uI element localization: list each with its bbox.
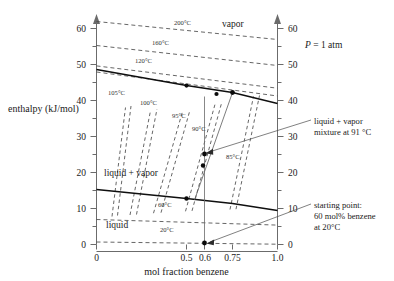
marker-mixture-lower [201, 163, 205, 167]
y-tick-label-30: 30 [77, 132, 87, 142]
isotherm-20C-label: 20°C [160, 226, 174, 233]
y-tick-labels-left: 0 10 20 30 40 50 60 [77, 24, 87, 250]
marker-dew-075 [230, 90, 235, 95]
isotherm-120C-label: 120°C [135, 57, 153, 64]
isotherm-100C-label: 100°C [140, 99, 158, 106]
isotherm-105C-line [112, 108, 126, 217]
annotation-mixture-line2: mixture at 91 °C [314, 127, 371, 137]
region-label-liquid: liquid [106, 220, 128, 230]
x-tick-label-075: 0.75 [224, 253, 241, 263]
y-tick-label-50: 50 [77, 60, 87, 70]
y-ticks-right [278, 29, 284, 245]
enthalpy-composition-diagram: 0 10 20 30 40 50 60 0 10 20 30 40 50 60 … [0, 0, 394, 281]
y-axis-right-arrow [274, 14, 281, 24]
x-tick-label-0: 0 [94, 253, 99, 263]
y-tick-label-20: 20 [77, 168, 87, 178]
y-tick-label-right-0: 0 [288, 240, 293, 250]
chart-svg: 0 10 20 30 40 50 60 0 10 20 30 40 50 60 … [0, 0, 394, 281]
x-ticks [97, 245, 278, 250]
pressure-label: P = 1 atm [304, 40, 343, 50]
y-tick-label-10: 10 [77, 204, 87, 214]
isotherm-200C-label: 200°C [174, 19, 192, 26]
y-tick-label-right-20: 20 [288, 168, 298, 178]
x-axis-title: mol fraction benzene [144, 266, 229, 277]
isotherm-160C-line [97, 46, 278, 66]
marker-bubble-05 [184, 196, 188, 200]
region-label-liquid-vapor: liquid + vapor [104, 168, 159, 178]
isotherm-90C-line [186, 103, 216, 212]
annotation-start-leader [210, 204, 311, 242]
region-label-vapor: vapor [222, 19, 244, 29]
x-tick-label-10: 1.0 [272, 253, 284, 263]
annotation-mixture-line1: liquid + vapor [314, 116, 363, 126]
y-tick-label-0: 0 [81, 240, 86, 250]
isotherm-20C-line [97, 242, 278, 244]
isotherm-105C-label: 105°C [108, 89, 126, 96]
y-tick-labels-right: 0 10 20 30 40 50 60 [288, 24, 298, 250]
x-tick-label-06: 0.6 [199, 253, 211, 263]
marker-starting-point [202, 241, 207, 246]
annotation-start-line1: starting point: [314, 200, 362, 210]
isotherm-85C-label: 85°C [226, 153, 240, 160]
isotherm-90C-label: 90°C [192, 125, 206, 132]
x-tick-label-05: 0.5 [181, 253, 193, 263]
isotherm-160C-label: 160°C [152, 39, 170, 46]
y-tick-label-right-10: 10 [288, 204, 298, 214]
isotherm-100C-line [130, 111, 151, 215]
isotherm-95C-label: 95°C [172, 112, 186, 119]
axes-group [93, 14, 281, 252]
marker-mixture-91C [202, 152, 207, 157]
marker-dew-066 [214, 92, 218, 96]
isotherm-100C-line-b [137, 109, 158, 215]
annotation-start-arrowhead [206, 239, 214, 245]
y-tick-label-right-60: 60 [288, 24, 298, 34]
y-tick-label-right-30: 30 [288, 132, 298, 142]
annotation-start-line2: 60 mol% benzene [314, 211, 376, 221]
y-tick-label-right-40: 40 [288, 96, 298, 106]
annotation-start-line3: at 20°C [314, 222, 340, 232]
isotherm-105C-line-b [118, 106, 132, 216]
y-ticks-left [91, 29, 97, 245]
marker-dew-05 [184, 84, 188, 88]
isotherm-60C-label: 60°C [158, 201, 172, 208]
y-tick-label-60: 60 [77, 24, 87, 34]
y-tick-label-right-50: 50 [288, 60, 298, 70]
y-axis-left-arrow [93, 14, 100, 24]
x-tick-labels: 0 0.5 0.6 0.75 1.0 [94, 253, 284, 263]
y-axis-title: enthalpy (kJ/mol) [8, 103, 79, 115]
